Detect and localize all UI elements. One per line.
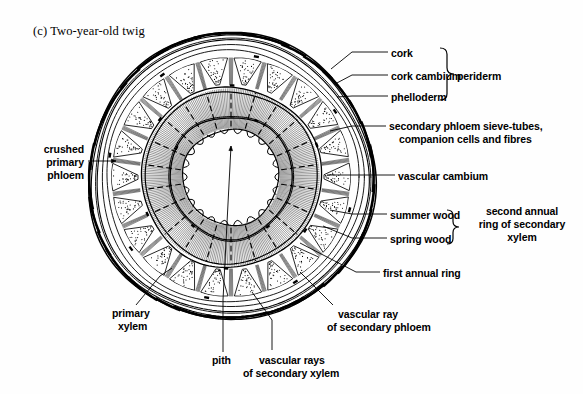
label-primary-xylem-line2: xylem	[118, 320, 147, 334]
label-spring-wood: spring wood	[390, 233, 451, 247]
label-secondary-phloem-line2: companion cells and fibres	[399, 133, 532, 147]
label-periderm: periderm	[457, 70, 501, 84]
label-first-annual-ring: first annual ring	[383, 267, 461, 281]
label-cork-cambium: cork cambium	[391, 70, 461, 84]
figure-page: (c) Two-year-old twig cork cork cambium …	[0, 0, 583, 394]
label-crushed-primary-phloem-line2: primary	[0, 156, 84, 170]
label-second-annual-ring-line1: second annual	[466, 205, 578, 219]
label-secondary-phloem-line1: secondary phloem sieve-tubes,	[389, 120, 543, 134]
label-vascular-cambium: vascular cambium	[398, 170, 488, 184]
label-phelloderm: phelloderm	[391, 91, 447, 105]
label-second-annual-ring-line3: xylem	[466, 231, 578, 245]
label-crushed-primary-phloem-line3: phloem	[0, 169, 84, 183]
label-vascular-rays-xylem-line1: vascular rays	[259, 354, 325, 368]
label-pith: pith	[212, 354, 231, 368]
figure-caption: (c) Two-year-old twig	[33, 24, 145, 39]
label-cork: cork	[391, 47, 413, 61]
label-crushed-primary-phloem-line1: crushed	[0, 143, 84, 157]
label-vascular-ray-phloem-line1: vascular ray	[338, 308, 398, 322]
label-second-annual-ring-line2: ring of secondary	[466, 218, 578, 232]
label-primary-xylem-line1: primary	[112, 307, 150, 321]
label-summer-wood: summer wood	[390, 209, 460, 223]
label-vascular-rays-xylem-line2: of secondary xylem	[243, 367, 339, 381]
twig-cross-section-diagram	[0, 0, 583, 394]
label-vascular-ray-phloem-line2: of secondary phloem	[327, 321, 431, 335]
